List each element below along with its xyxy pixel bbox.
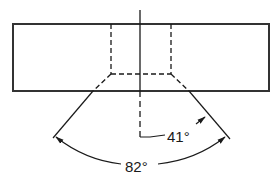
half-angle-label: 41° (167, 128, 190, 145)
half-angle-arrow (196, 117, 205, 124)
included-angle-label: 82° (125, 158, 148, 175)
hidden-hole (93, 24, 189, 91)
block-outline (13, 24, 269, 91)
included-angle-arc-left (56, 137, 121, 164)
extension-line-left (53, 91, 93, 138)
half-angle-leader (140, 135, 165, 137)
extension-line-right (189, 91, 230, 139)
diagram-canvas: 41° 82° (0, 0, 277, 185)
